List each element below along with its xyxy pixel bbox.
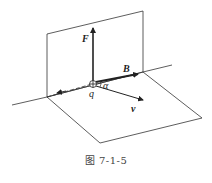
field-line-dashed: [47, 84, 92, 97]
angle-arc: [100, 81, 101, 87]
label-angle: α: [103, 80, 109, 91]
label-field: B: [122, 63, 130, 74]
label-velocity: v: [131, 103, 136, 114]
label-force: F: [81, 33, 89, 44]
horizontal-plane: [47, 72, 202, 143]
field-line-left: [12, 97, 47, 105]
label-charge: q: [89, 88, 94, 99]
figure-caption: 图 7-1-5: [0, 152, 212, 167]
field-line-right: [143, 65, 172, 72]
